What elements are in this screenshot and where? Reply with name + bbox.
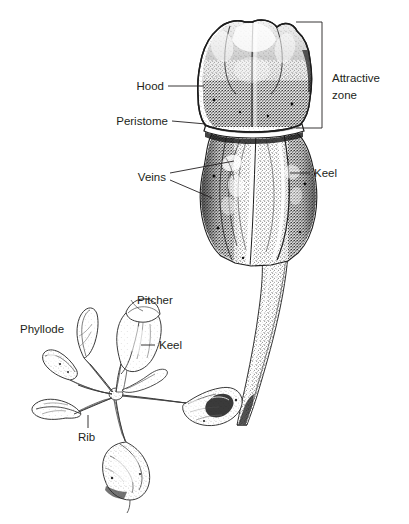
label-attractive-zone-line1: Attractive <box>332 72 380 84</box>
label-pitcher: Pitcher <box>137 294 173 306</box>
label-keel-upper: Keel <box>314 167 337 179</box>
pitcher-plant-figure: Hood Peristome Veins Keel Attractive zon… <box>0 0 409 524</box>
figure-caption <box>0 514 409 524</box>
label-peristome: Peristome <box>116 115 168 127</box>
label-phyllode: Phyllode <box>20 323 64 335</box>
label-hood: Hood <box>137 80 165 92</box>
label-keel-lower: Keel <box>159 339 182 351</box>
label-attractive-zone-line2: zone <box>332 89 357 101</box>
pitcher-hood <box>196 20 316 135</box>
label-veins: Veins <box>138 171 166 183</box>
label-rib: Rib <box>78 431 95 443</box>
pitcher-body <box>200 130 320 270</box>
